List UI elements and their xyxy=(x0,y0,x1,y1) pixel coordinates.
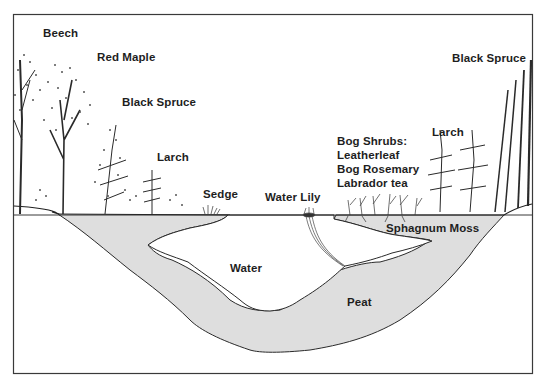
left-forest xyxy=(14,60,161,214)
label-larch-right: Larch xyxy=(432,126,464,139)
bog-shrub-bog-rosemary: Bog Rosemary xyxy=(337,162,419,176)
bog-shrub-labrador-tea: Labrador tea xyxy=(337,176,419,190)
label-water: Water xyxy=(230,262,262,275)
left-foliage xyxy=(14,54,183,206)
label-larch-left: Larch xyxy=(157,151,189,164)
bog-diagram: Beech Red Maple Black Spruce Larch Sedge… xyxy=(0,0,548,390)
label-sphagnum-moss: Sphagnum Moss xyxy=(386,222,479,235)
label-black-spruce-right: Black Spruce xyxy=(452,52,526,65)
label-peat: Peat xyxy=(347,296,372,309)
bog-shrub-leatherleaf: Leatherleaf xyxy=(337,148,419,162)
label-bog-shrubs: Bog Shrubs: Leatherleaf Bog Rosemary Lab… xyxy=(337,134,419,190)
label-beech: Beech xyxy=(43,27,78,40)
label-black-spruce-left: Black Spruce xyxy=(122,96,196,109)
bog-shrubs-heading: Bog Shrubs: xyxy=(337,134,419,148)
label-sedge: Sedge xyxy=(203,188,238,201)
label-water-lily: Water Lily xyxy=(265,191,321,204)
sedge-tuft xyxy=(203,205,220,214)
label-red-maple: Red Maple xyxy=(97,51,155,64)
ground-left xyxy=(14,206,230,215)
